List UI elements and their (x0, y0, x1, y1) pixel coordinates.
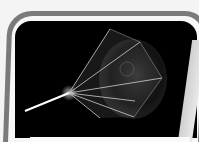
dark-screen (15, 21, 197, 138)
bottom-edge (30, 137, 190, 142)
light-beam-illustration (15, 21, 197, 138)
